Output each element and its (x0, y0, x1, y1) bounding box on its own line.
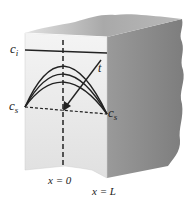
slab-diagram: ci cs cs t x = 0 x = L (0, 0, 195, 199)
xL-label: x = L (91, 185, 116, 197)
cs-left-label: cs (9, 98, 19, 115)
slab-side-face (107, 19, 184, 178)
x0-label: x = 0 (47, 174, 72, 186)
ci-label: ci (10, 41, 19, 58)
